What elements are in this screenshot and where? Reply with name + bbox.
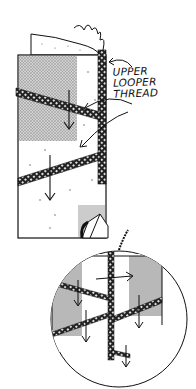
label-line-3: THREAD [113,87,158,100]
upper-looper-thread-label: UPPER LOOPER THREAD [112,65,158,100]
front-fabric-panel [18,55,106,238]
back-fabric-layer [31,34,100,55]
magnified-inset [51,251,187,387]
serger-seam-diagram [0,0,196,389]
illustration-canvas: UPPER LOOPER THREAD [0,0,196,389]
inset-connector-thread [118,230,128,253]
